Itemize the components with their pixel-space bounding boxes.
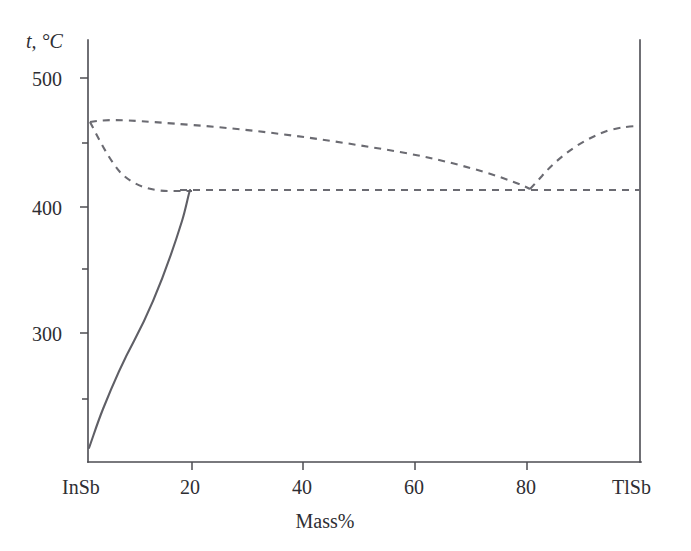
x-tick-label-insb: InSb — [62, 476, 100, 498]
y-tick-label-500: 500 — [32, 68, 62, 90]
y-tick-label-300: 300 — [32, 323, 62, 345]
phase-diagram-figure: t, °C 500 400 300 InSb 20 40 60 80 TlSb … — [0, 0, 691, 551]
x-tick-label-20: 20 — [180, 476, 200, 498]
x-tick-label-80: 80 — [516, 476, 536, 498]
y-tick-label-400: 400 — [32, 197, 62, 219]
x-tick-label-60: 60 — [404, 476, 424, 498]
x-axis-caption: Mass% — [296, 510, 355, 532]
chart-canvas: t, °C 500 400 300 InSb 20 40 60 80 TlSb … — [0, 0, 691, 551]
solidus-left-dashed-curve — [90, 122, 192, 191]
solvus-solid-curve — [89, 190, 190, 448]
x-tick-label-40: 40 — [292, 476, 312, 498]
x-tick-label-tlsb: TlSb — [612, 476, 651, 498]
y-axis-caption: t, °C — [26, 30, 64, 52]
liquidus-upper-dashed-curve — [90, 120, 530, 189]
liquidus-right-dashed-curve — [530, 126, 640, 189]
